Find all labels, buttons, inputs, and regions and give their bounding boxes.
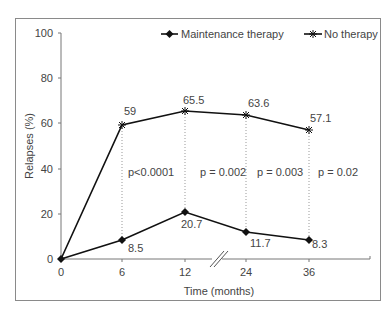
asterisk-markers — [118, 107, 313, 134]
relapse-chart: 100 80 60 40 20 0 Relapses (%) 0 6 12 24… — [0, 0, 392, 317]
p-value-6: p<0.0001 — [128, 166, 174, 178]
series-no-therapy — [61, 111, 309, 259]
x-axis: 0 6 12 24 36 Time (months) — [58, 251, 370, 297]
label-m-24: 11.7 — [250, 237, 271, 249]
label-no-24: 63.6 — [248, 97, 269, 109]
label-m-36: 8.3 — [312, 238, 327, 250]
x-tick-36: 36 — [303, 266, 315, 278]
y-tick-80: 80 — [41, 72, 53, 84]
x-tick-12: 12 — [179, 266, 191, 278]
y-tick-0: 0 — [47, 253, 53, 265]
label-no-36: 57.1 — [310, 112, 331, 124]
legend-maintenance: Maintenance therapy — [181, 28, 284, 40]
x-axis-label: Time (months) — [184, 285, 255, 297]
y-tick-60: 60 — [41, 117, 53, 129]
x-tick-24: 24 — [240, 266, 252, 278]
label-no-6: 59 — [124, 105, 136, 117]
y-axis-label: Relapses (%) — [23, 113, 35, 179]
y-tick-100: 100 — [35, 27, 53, 39]
label-no-12: 65.5 — [183, 94, 204, 106]
chart-frame — [16, 19, 381, 301]
label-m-12: 20.7 — [181, 218, 202, 230]
label-m-6: 8.5 — [128, 242, 143, 254]
asterisk-icon — [309, 30, 317, 38]
legend-no-therapy: No therapy — [324, 28, 378, 40]
y-tick-20: 20 — [41, 208, 53, 220]
x-tick-6: 6 — [119, 266, 125, 278]
legend: Maintenance therapy No therapy — [161, 28, 378, 40]
y-axis: 100 80 60 40 20 0 Relapses (%) — [23, 27, 61, 265]
p-value-36: p = 0.02 — [318, 166, 358, 178]
p-value-24: p = 0.003 — [257, 166, 303, 178]
diamond-icon — [166, 30, 174, 38]
y-tick-40: 40 — [41, 163, 53, 175]
p-value-12: p = 0.002 — [200, 166, 246, 178]
x-tick-0: 0 — [58, 266, 64, 278]
